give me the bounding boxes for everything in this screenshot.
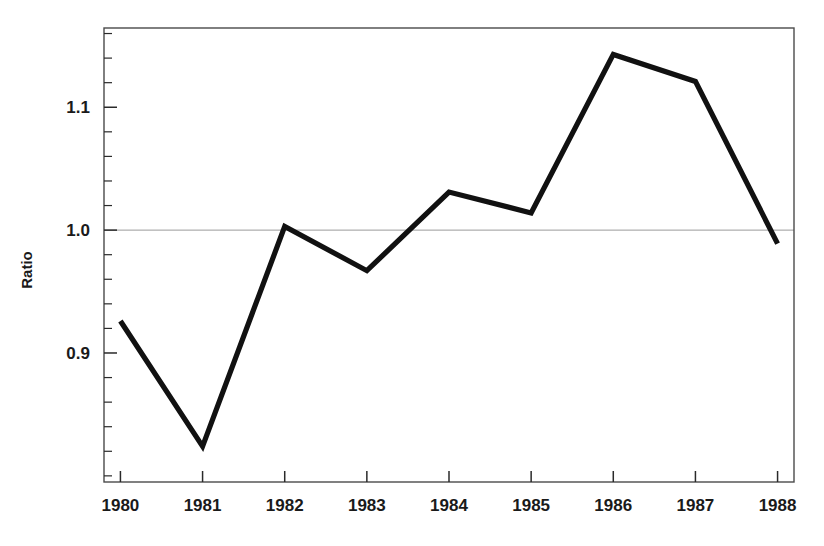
x-tick-label-1983: 1983 — [348, 496, 386, 515]
y-tick-label-1.1: 1.1 — [66, 98, 90, 117]
x-axis-tick-labels: 198019811982198319841985198619871988 — [102, 496, 797, 515]
y-tick-label-0.9: 0.9 — [66, 344, 90, 363]
chart-container: 1.11.00.9 198019811982198319841985198619… — [0, 0, 824, 546]
x-tick-label-1980: 1980 — [102, 496, 140, 515]
x-tick-label-1982: 1982 — [266, 496, 304, 515]
x-tick-label-1988: 1988 — [759, 496, 797, 515]
chart-background — [0, 0, 824, 546]
x-tick-label-1984: 1984 — [430, 496, 468, 515]
x-tick-label-1981: 1981 — [184, 496, 222, 515]
line-chart: 1.11.00.9 198019811982198319841985198619… — [0, 0, 824, 546]
x-tick-label-1987: 1987 — [677, 496, 715, 515]
x-tick-label-1986: 1986 — [594, 496, 632, 515]
y-tick-label-1.0: 1.0 — [66, 221, 90, 240]
x-tick-label-1985: 1985 — [512, 496, 550, 515]
y-axis-title: Ratio — [18, 251, 35, 289]
